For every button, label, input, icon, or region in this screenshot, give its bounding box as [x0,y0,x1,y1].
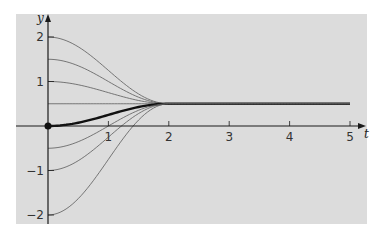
initial-point-marker [45,123,52,130]
x-tick-label: 1 [105,130,113,144]
y-tick-label: 2 [36,30,44,44]
x-tick-label: 5 [346,130,354,144]
plot-background [16,14,367,224]
y-axis-label: y [36,11,44,25]
y-tick-label: 1 [36,75,44,89]
x-tick-label: 4 [286,130,294,144]
y-tick-label: −1 [26,164,44,178]
x-tick-label: 3 [225,130,233,144]
chart: t y 12345 21−1−2 [0,0,382,237]
x-tick-label: 2 [165,130,173,144]
x-axis-label: t [364,127,369,141]
y-tick-label: −2 [26,208,44,222]
